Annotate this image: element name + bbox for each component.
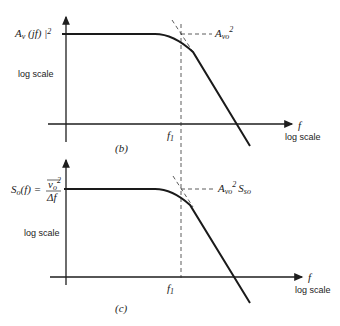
bode-diagram: Av (jf) |2 log scale Avo2 f log scale f1…: [0, 0, 340, 326]
caption-c: (c): [115, 302, 128, 315]
y-scale-label-b: log scale: [18, 69, 54, 79]
y-axis-label-c: So(f) = vo2 Δf: [11, 176, 61, 203]
svg-text:So(f) =: So(f) =: [11, 183, 41, 197]
svg-text:Δf: Δf: [46, 191, 58, 203]
response-curve-b: [62, 34, 250, 146]
panel-b: Av (jf) |2 log scale Avo2 f log scale f1…: [14, 17, 321, 163]
x-scale-label-c: log scale: [295, 285, 331, 295]
x-axis-label-b: f: [298, 119, 303, 131]
panel-c: So(f) = vo2 Δf log scale Avo2Sso f log s…: [11, 160, 331, 315]
y-scale-label-c: log scale: [24, 228, 60, 238]
asymptote-label-c: Avo2Sso: [217, 180, 251, 196]
x-axis-label-c: f: [308, 271, 313, 283]
corner-frequency-label-b: f1: [167, 129, 174, 143]
y-axis-label-b: Av (jf) |2: [14, 27, 51, 41]
svg-text:vo2: vo2: [48, 176, 61, 192]
caption-b: (b): [115, 142, 128, 155]
x-scale-label-b: log scale: [285, 132, 321, 142]
asymptote-label-b: Avo2: [214, 25, 233, 41]
corner-frequency-label-c: f1: [167, 282, 174, 296]
response-curve-c: [64, 189, 250, 303]
rolloff-asymptote-c: [173, 176, 193, 207]
